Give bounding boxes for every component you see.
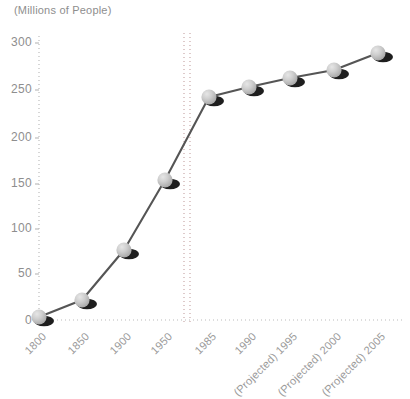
y-tick-marks xyxy=(35,43,39,274)
marker-1985 xyxy=(201,89,216,104)
marker-1950 xyxy=(157,172,172,187)
marker-1850 xyxy=(74,292,89,307)
plot-area xyxy=(0,0,410,399)
marker-2005 xyxy=(370,45,385,60)
marker-1990 xyxy=(241,79,256,94)
population-line-chart: (Millions of People) 300 250 200 150 100… xyxy=(0,0,410,399)
data-markers xyxy=(31,45,393,326)
marker-2000 xyxy=(326,62,341,77)
marker-1900 xyxy=(116,242,131,257)
marker-1995 xyxy=(282,70,297,85)
marker-1800 xyxy=(31,309,46,324)
